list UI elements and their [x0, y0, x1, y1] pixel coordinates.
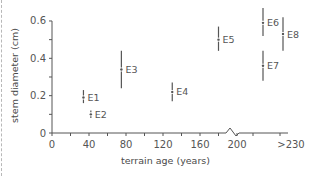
- x-tick-label: 80: [120, 139, 133, 150]
- point-label: E1: [87, 92, 99, 103]
- y-tick-label: 0.6: [30, 15, 46, 26]
- point-label: E5: [223, 34, 235, 45]
- data-point: [82, 96, 84, 98]
- scatter-plot: 00.20.40.604080120160200>230E1E2E3E4E5E6…: [0, 0, 312, 176]
- point-label: E7: [267, 60, 279, 71]
- point-label: E8: [287, 29, 299, 40]
- x-tick-label: 0: [49, 139, 55, 150]
- x-tick-label: >230: [277, 139, 304, 150]
- x-axis-label: terrain age (years): [121, 155, 210, 166]
- point-label: E3: [125, 64, 137, 75]
- point-label: E6: [267, 17, 279, 28]
- x-tick-label: 200: [227, 139, 246, 150]
- data-point: [120, 68, 122, 70]
- data-point: [282, 33, 284, 35]
- chart-frame: 00.20.40.604080120160200>230E1E2E3E4E5E6…: [0, 0, 312, 176]
- x-tick-label: 120: [153, 139, 172, 150]
- y-tick-label: 0: [40, 128, 46, 139]
- data-point: [90, 113, 92, 115]
- point-label: E4: [176, 86, 188, 97]
- point-label: E2: [95, 109, 107, 120]
- data-point: [262, 22, 264, 24]
- data-point: [217, 38, 219, 40]
- data-point: [171, 91, 173, 93]
- x-tick-label: 40: [83, 139, 96, 150]
- y-tick-label: 0.4: [30, 53, 46, 64]
- y-axis-label: stem diameter (cm): [9, 26, 20, 126]
- x-tick-label: 160: [190, 139, 209, 150]
- data-point: [262, 65, 264, 67]
- y-tick-label: 0.2: [30, 90, 46, 101]
